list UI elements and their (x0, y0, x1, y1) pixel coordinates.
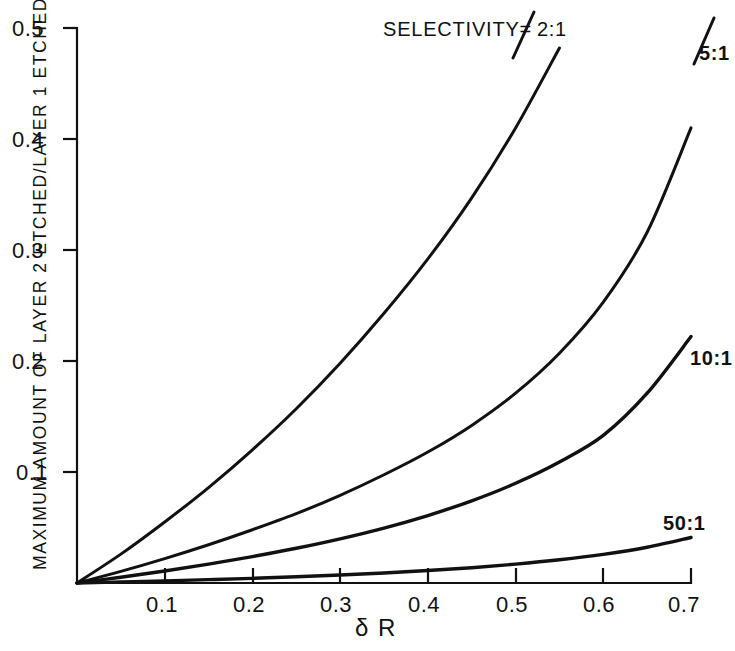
x-tick-label-0.4: 0.4 (408, 592, 440, 618)
x-tick-label-0.6: 0.6 (583, 592, 615, 618)
curve-selectivity-2-1 (77, 48, 559, 583)
x-tick-label-0.3: 0.3 (320, 592, 352, 618)
x-tick-label-0.2: 0.2 (233, 592, 265, 618)
y-axis-ticks (63, 28, 77, 472)
chart-figure: 0.5 0.4 0.3 0.2 0.1 0.1 0.2 0.3 0.4 0.5 … (0, 0, 735, 651)
x-tick-label-0.5: 0.5 (496, 592, 528, 618)
series-label-5-1: 5:1 (699, 42, 730, 65)
curve-selectivity-10-1 (77, 337, 691, 583)
curve-selectivity-5-1 (77, 128, 691, 583)
chart-plot-area (0, 0, 735, 651)
series-label-2-1: 2:1 (537, 18, 567, 41)
series-label-50-1: 50:1 (663, 512, 705, 535)
y-axis-title: MAXIMUM AMOUNT OF LAYER 2 ETCHED/LAYER 1… (30, 0, 51, 570)
x-axis-title: δ R (355, 614, 397, 642)
series-label-10-1: 10:1 (690, 347, 732, 370)
selectivity-annotation: SELECTIVITY= (383, 18, 532, 41)
curve-selectivity-50-1 (77, 537, 691, 583)
x-tick-label-0.1: 0.1 (146, 592, 178, 618)
x-tick-label-0.7: 0.7 (668, 592, 700, 618)
